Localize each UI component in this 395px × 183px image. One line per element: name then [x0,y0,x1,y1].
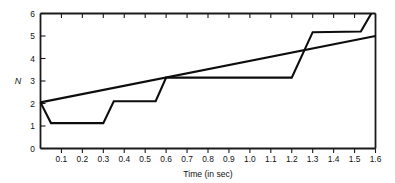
x-axis-title: Time (in sec) [183,169,232,179]
series-straight-line [41,36,376,102]
x-tick-label: 1.1 [265,154,277,164]
x-axis-ticks [61,14,375,154]
x-tick-label: 0.2 [77,154,89,164]
y-tick-label: 0 [30,144,35,154]
y-axis-tick-labels: 0123456 [30,9,35,154]
x-tick-label: 1.2 [286,154,298,164]
plot-frame [41,14,376,149]
chart-figure: 0.10.20.30.40.50.60.70.80.91.01.11.21.31… [0,0,395,183]
x-tick-label: 1.3 [307,154,319,164]
x-tick-label: 0.8 [202,154,214,164]
x-tick-label: 0.5 [139,154,151,164]
data-series-group [41,14,376,124]
chart-canvas: 0.10.20.30.40.50.60.70.80.91.01.11.21.31… [0,0,395,183]
y-tick-label: 6 [30,9,35,19]
y-tick-label: 4 [30,54,35,64]
y-tick-label: 3 [30,76,35,86]
x-tick-label: 0.7 [181,154,193,164]
y-tick-label: 1 [30,121,35,131]
x-tick-label: 0.6 [160,154,172,164]
x-tick-label: 0.1 [56,154,68,164]
x-tick-label: 1.6 [370,154,382,164]
x-axis-tick-labels: 0.10.20.30.40.50.60.70.80.91.01.11.21.31… [56,154,382,164]
x-tick-label: 1.5 [349,154,361,164]
x-tick-label: 0.4 [118,154,130,164]
series-step-curve [41,14,372,124]
x-tick-label: 0.9 [223,154,235,164]
y-tick-label: 2 [30,99,35,109]
y-tick-label: 5 [30,31,35,41]
x-tick-label: 1.4 [328,154,340,164]
y-axis-title: N [15,76,22,86]
x-tick-label: 1.0 [244,154,256,164]
x-tick-label: 0.3 [97,154,109,164]
